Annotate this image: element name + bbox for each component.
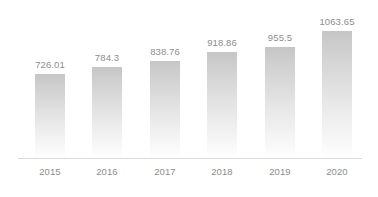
bar-group-2018[interactable]: 918.86	[207, 52, 237, 158]
bar-2018[interactable]	[207, 52, 237, 158]
bar-value-label: 784.3	[76, 52, 138, 63]
bar-value-label: 955.5	[249, 32, 311, 43]
bar-2020[interactable]	[322, 31, 352, 158]
bar-value-label: 1063.65	[306, 16, 368, 27]
bar-group-2015[interactable]: 726.01	[35, 74, 65, 158]
bar-2016[interactable]	[92, 67, 122, 158]
x-axis-label-2019: 2019	[249, 166, 311, 177]
x-axis-label-2020: 2020	[306, 166, 368, 177]
bar-group-2017[interactable]: 838.76	[150, 61, 180, 158]
bar-value-label: 918.86	[191, 37, 253, 48]
bar-2017[interactable]	[150, 61, 180, 158]
bar-group-2020[interactable]: 1063.65	[322, 31, 352, 158]
bar-2015[interactable]	[35, 74, 65, 158]
bar-value-label: 726.01	[19, 59, 81, 70]
x-axis-label-2016: 2016	[76, 166, 138, 177]
bar-group-2016[interactable]: 784.3	[92, 67, 122, 158]
plot-area: 726.01 784.3 838.76 918.86 955.5 1063.65…	[0, 0, 378, 197]
x-axis-label-2018: 2018	[191, 166, 253, 177]
bar-2019[interactable]	[265, 47, 295, 158]
x-axis-line	[18, 158, 362, 159]
x-axis-label-2017: 2017	[134, 166, 196, 177]
bar-chart: 726.01 784.3 838.76 918.86 955.5 1063.65…	[0, 0, 378, 197]
bar-value-label: 838.76	[134, 46, 196, 57]
x-axis-label-2015: 2015	[19, 166, 81, 177]
bar-group-2019[interactable]: 955.5	[265, 47, 295, 158]
